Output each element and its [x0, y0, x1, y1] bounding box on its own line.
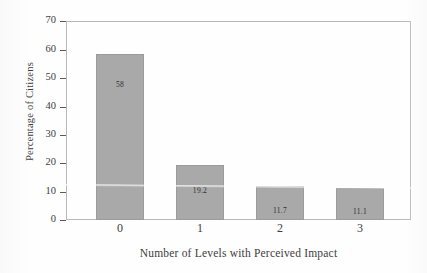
y-tick-mark [60, 78, 66, 79]
bar-category-0: 58 [96, 54, 144, 220]
y-tick-mark [60, 192, 66, 193]
y-tick-label: 50 [20, 71, 56, 82]
bar-value-label: 58 [97, 80, 143, 89]
bar-value-label: 11.7 [257, 206, 303, 215]
y-tick-label: 70 [20, 14, 56, 25]
y-tick-label: 0 [20, 213, 56, 224]
y-tick-mark [60, 107, 66, 108]
x-tick-label-1: 1 [180, 221, 220, 236]
y-tick-mark [60, 163, 66, 164]
y-tick-mark [60, 21, 66, 22]
y-tick-mark [60, 135, 66, 136]
x-tick-label-3: 3 [340, 221, 380, 236]
y-tick-label: 40 [20, 100, 56, 111]
bar-value-label: 11.1 [337, 207, 383, 216]
bar-category-2: 11.7 [256, 186, 304, 220]
x-tick-label-2: 2 [260, 221, 300, 236]
bar-category-3: 11.1 [336, 188, 384, 220]
bar-value-label: 19.2 [177, 186, 223, 195]
y-tick-mark [60, 50, 66, 51]
y-tick-label: 30 [20, 128, 56, 139]
y-axis-title: Percentage of Citizens [24, 12, 35, 212]
y-tick-label: 10 [20, 185, 56, 196]
x-tick-label-0: 0 [100, 221, 140, 236]
y-tick-label: 20 [20, 156, 56, 167]
bar-category-1: 19.2 [176, 165, 224, 221]
y-tick-mark [60, 220, 66, 221]
bar-chart-figure: Percentage of Citizens 0 10 20 30 40 50 … [0, 0, 427, 273]
x-axis-title: Number of Levels with Perceived Impact [66, 247, 411, 259]
y-tick-label: 60 [20, 43, 56, 54]
